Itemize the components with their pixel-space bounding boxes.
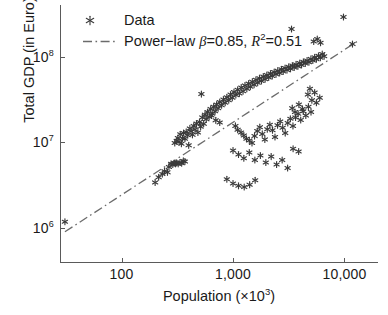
x-axis-spine [60, 262, 378, 263]
legend-powerlaw-prefix: Power−law [124, 33, 199, 49]
chart-legend: Data Power−law β=0.85, R2=0.51 [78, 10, 308, 52]
asterisk-marker-icon [82, 10, 116, 31]
x-tick-label: 10,000 [322, 266, 366, 282]
x-axis-label-suffix: ) [270, 288, 275, 304]
x-tick-label: 100 [110, 266, 134, 282]
y-axis-label: Total GDP (in Euro) [21, 0, 37, 175]
legend-r-value: =0.51 [266, 33, 303, 49]
x-axis-label-prefix: Population (×10 [163, 288, 265, 304]
legend-label-data: Data [124, 10, 155, 31]
x-axis-label: Population (×103) [60, 288, 378, 304]
legend-r-symbol: R [251, 33, 260, 49]
legend-entry-powerlaw: Power−law β=0.85, R2=0.51 [78, 31, 308, 52]
legend-beta-symbol: β [199, 33, 206, 49]
legend-entry-data: Data [78, 10, 308, 31]
legend-label-powerlaw: Power−law β=0.85, R2=0.51 [124, 31, 302, 52]
y-tick-label: 106 [18, 220, 54, 236]
gdp-population-scatter-figure: 1001,00010,000 108107106 Population (×10… [0, 0, 388, 315]
x-tick-label: 1,000 [215, 266, 251, 282]
dashdot-line-icon [82, 31, 116, 52]
legend-beta-value: =0.85, [207, 33, 252, 49]
